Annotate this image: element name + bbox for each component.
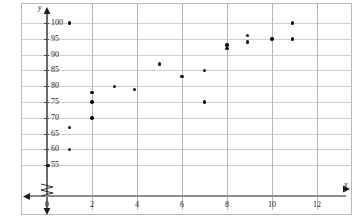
x-axis-label: x bbox=[344, 181, 348, 189]
y-axis-down-arrow-icon bbox=[44, 208, 51, 215]
x-axis-left-arrow-icon bbox=[23, 193, 30, 200]
y-axis-arrow-icon bbox=[44, 7, 51, 14]
y-axis-label: y bbox=[38, 4, 42, 12]
scatter-plot: 556065707580859095100024681012 y x bbox=[0, 0, 353, 218]
axis-break-icon bbox=[41, 184, 53, 196]
axis-decorations bbox=[0, 0, 353, 218]
